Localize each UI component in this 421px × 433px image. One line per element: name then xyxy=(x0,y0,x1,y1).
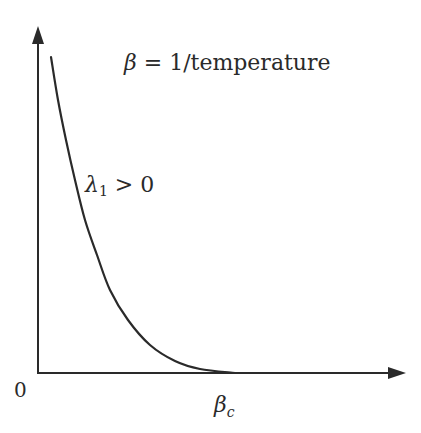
curve-label: λ1 > 0 xyxy=(85,172,154,199)
origin-label: 0 xyxy=(14,378,27,402)
beta-c-symbol: β xyxy=(214,392,227,417)
title-text: = 1/temperature xyxy=(137,50,331,75)
beta-c-subscript: c xyxy=(227,404,235,420)
lambda1-curve xyxy=(51,57,235,373)
y-axis-arrow-icon xyxy=(32,26,44,44)
chart-title: β = 1/temperature xyxy=(124,50,331,75)
beta-c-tick-label: βc xyxy=(214,392,235,420)
title-beta-symbol: β xyxy=(124,50,137,75)
lambda-symbol: λ xyxy=(85,172,99,197)
x-axis-arrow-icon xyxy=(388,367,406,379)
lambda-subscript: 1 xyxy=(99,183,108,199)
curve-label-text: > 0 xyxy=(108,172,154,197)
